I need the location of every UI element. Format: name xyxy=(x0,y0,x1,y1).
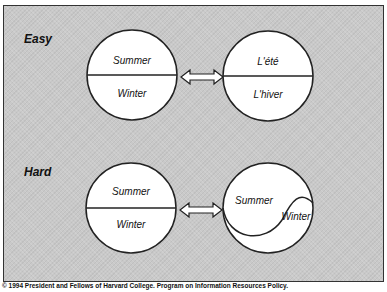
easy-left-bottom-text: Winter xyxy=(118,88,147,99)
hard-left-bottom-text: Winter xyxy=(117,219,146,230)
diagram-canvas: Summer Winter L'été L'hiver Summer Winte… xyxy=(0,0,387,292)
easy-right-bottom-text: L'hiver xyxy=(253,89,283,100)
hard-left-top-text: Summer xyxy=(112,186,150,197)
hard-left-circle: Summer Winter xyxy=(86,163,176,253)
hard-right-circle: Summer Winter xyxy=(223,163,313,253)
copyright-caption: © 1994 President and Fellows of Harvard … xyxy=(2,282,288,289)
double-arrow-icon xyxy=(180,203,222,217)
hard-right-left-text: Summer xyxy=(235,195,273,206)
double-arrow-icon xyxy=(181,70,223,84)
easy-left-circle: Summer Winter xyxy=(87,30,177,120)
hard-right-right-text: Winter xyxy=(282,211,311,222)
easy-left-top-text: Summer xyxy=(113,55,151,66)
easy-right-top-text: L'été xyxy=(257,56,279,67)
easy-right-circle: L'été L'hiver xyxy=(223,31,313,121)
